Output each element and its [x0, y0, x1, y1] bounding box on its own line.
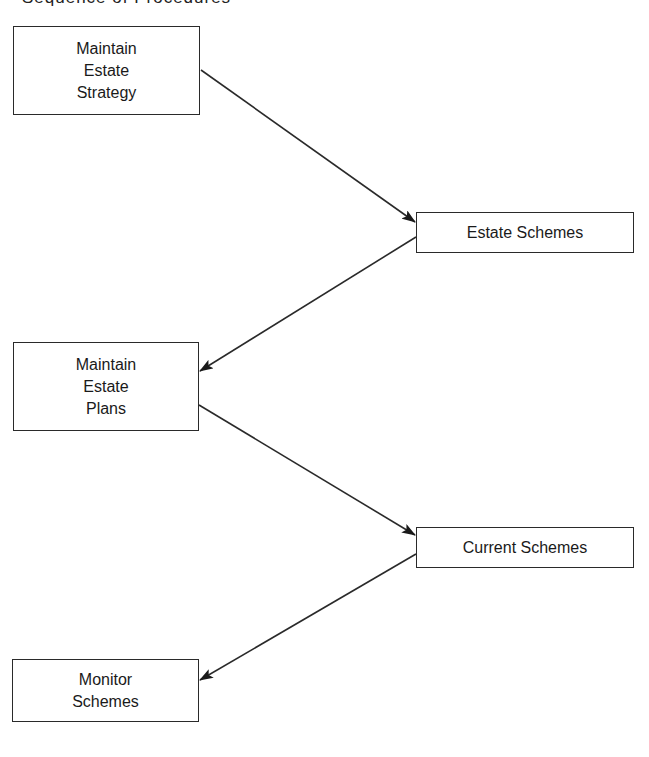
node-maintain-estate-strategy: Maintain Estate Strategy	[13, 26, 200, 115]
node-maintain-estate-plans: Maintain Estate Plans	[13, 342, 199, 431]
edge-group	[199, 70, 416, 680]
node-label: Current Schemes	[463, 537, 588, 559]
arrow-maintain-estate-plans-to-current-schemes	[199, 405, 415, 535]
node-estate-schemes: Estate Schemes	[416, 212, 634, 253]
node-label: Estate Schemes	[467, 222, 584, 244]
node-label: Maintain Estate Strategy	[76, 38, 136, 104]
arrow-current-schemes-to-monitor-schemes	[200, 554, 416, 680]
arrow-estate-schemes-to-maintain-estate-plans	[200, 237, 416, 371]
node-label: Monitor Schemes	[72, 669, 139, 713]
arrow-maintain-estate-strategy-to-estate-schemes	[201, 70, 415, 222]
node-label: Maintain Estate Plans	[76, 354, 136, 420]
node-monitor-schemes: Monitor Schemes	[12, 659, 199, 722]
node-current-schemes: Current Schemes	[416, 527, 634, 568]
